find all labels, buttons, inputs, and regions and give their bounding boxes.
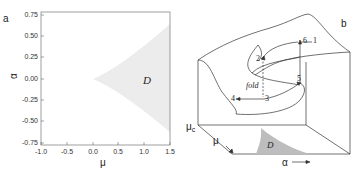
xtick: 0.5	[113, 148, 123, 155]
region-d-floor	[256, 128, 310, 154]
point-1: 1	[313, 36, 317, 45]
point-4: 4	[231, 94, 235, 103]
x-axis	[41, 142, 170, 145]
figure: a D 0.75 0.50 0.25 0.00 -0.25 -0.50 -0.7…	[0, 0, 360, 174]
arrow-2	[261, 56, 265, 60]
ytick: -0.50	[22, 117, 38, 124]
surface-left-edge	[198, 60, 236, 114]
xtick: 1.0	[139, 148, 149, 155]
mu-label: μ	[213, 135, 219, 146]
ytick: 0.75	[24, 11, 38, 18]
y-axis-label: α	[8, 73, 19, 79]
region-d	[93, 24, 170, 132]
ytick: -0.25	[22, 96, 38, 103]
xtick: 0.0	[88, 148, 98, 155]
ytick: -0.75	[22, 139, 38, 146]
surface-top-edge	[198, 14, 350, 60]
y-axis	[41, 15, 44, 143]
panel-a: a D 0.75 0.50 0.25 0.00 -0.25 -0.50 -0.7…	[3, 11, 175, 168]
arrow-4	[236, 98, 240, 101]
point-5: 5	[297, 74, 301, 83]
panel-a-label: a	[3, 13, 9, 24]
xtick: 1.5	[165, 148, 175, 155]
ytick: 0.00	[24, 75, 38, 82]
region-d-label-b: D	[266, 140, 274, 150]
point-6: 6	[303, 36, 307, 45]
point-3: 3	[265, 94, 269, 103]
xtick: -0.5	[61, 148, 73, 155]
fold-curve-upper	[248, 45, 300, 85]
x-axis-label: μ	[100, 157, 106, 168]
fold-label: fold	[246, 81, 259, 90]
region-d-label: D	[142, 74, 151, 86]
xtick: -1.0	[35, 148, 47, 155]
ytick: 0.25	[24, 53, 38, 60]
point-2: 2	[256, 54, 260, 63]
arrow-6	[299, 40, 302, 44]
path-1-to-2	[263, 42, 298, 58]
alpha-arrowhead	[306, 161, 310, 164]
panel-b-label: b	[341, 18, 347, 29]
alpha-label: α	[282, 157, 288, 168]
panel-b: b 6 1 2 3 4 5	[186, 14, 350, 168]
ytick: 0.50	[24, 32, 38, 39]
mu-c-label: μc	[186, 121, 196, 133]
